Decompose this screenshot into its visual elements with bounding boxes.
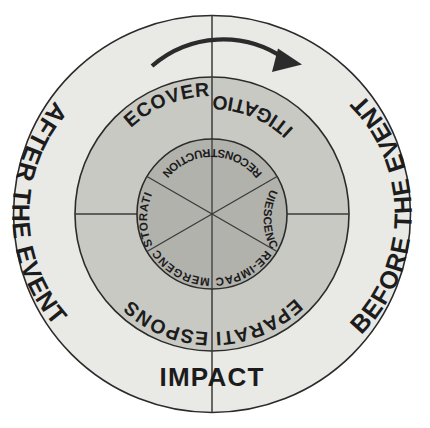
outer-label-impact: IMPACT: [160, 362, 265, 392]
disaster-management-cycle-diagram: AFTER THE EVENT BEFORE THE EVENT IMPACT …: [0, 0, 430, 428]
cycle-svg-canvas: AFTER THE EVENT BEFORE THE EVENT IMPACT …: [0, 0, 430, 428]
